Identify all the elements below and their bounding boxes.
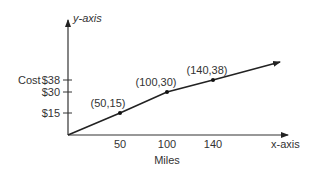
y-axis-label: Cost [18,74,41,86]
data-point-100-30 [165,90,169,94]
x-tick-label-140: 140 [204,138,222,150]
annotation-140-38: (140,38) [187,64,228,76]
chart-canvas: y-axis Cost $38 $30 $15 50 100 140 Miles… [0,0,310,174]
x-tick-label-50: 50 [114,138,126,150]
annotation-50-15: (50,15) [91,97,126,109]
y-tick-label-30: $30 [42,86,60,98]
y-tick-label-15: $15 [42,107,60,119]
x-axis-name: x-axis [271,138,300,150]
data-point-50-15 [118,111,122,115]
annotation-100-30: (100,30) [136,76,177,88]
data-point-140-38 [211,78,215,82]
y-tick-label-38: $38 [42,74,60,86]
x-tick-label-100: 100 [158,138,176,150]
y-axis-name: y-axis [72,12,102,24]
x-axis-label: Miles [154,154,180,166]
